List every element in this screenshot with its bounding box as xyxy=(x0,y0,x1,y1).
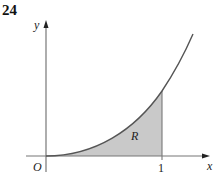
y-axis-arrow-icon xyxy=(44,20,49,28)
shaded-region xyxy=(46,91,162,156)
region-label: R xyxy=(130,129,139,143)
x-axis-arrow-icon xyxy=(202,154,210,159)
x-axis-label: x xyxy=(206,159,213,173)
figure: y x O 1 R xyxy=(0,0,224,185)
origin-label: O xyxy=(33,160,42,174)
y-axis-label: y xyxy=(33,18,40,32)
x-tick-1: 1 xyxy=(158,161,164,175)
